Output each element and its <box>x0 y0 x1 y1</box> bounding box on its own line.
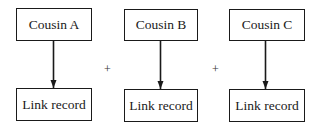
cousin-b-box: Cousin B <box>124 9 198 41</box>
link-record-b-label: Link record <box>129 98 192 114</box>
link-record-b-box: Link record <box>124 89 198 122</box>
cousin-c-label: Cousin C <box>242 17 293 33</box>
plus-operator-2: + <box>212 63 219 75</box>
arrow-c <box>263 41 269 89</box>
link-record-a-label: Link record <box>22 97 85 113</box>
arrow-a <box>51 41 57 88</box>
link-record-c-box: Link record <box>229 89 305 122</box>
arrow-b <box>158 41 164 89</box>
cousin-a-box: Cousin A <box>16 8 92 41</box>
cousin-a-label: Cousin A <box>29 17 80 33</box>
link-record-a-box: Link record <box>16 88 92 121</box>
cousin-c-box: Cousin C <box>229 9 305 41</box>
cousin-b-label: Cousin B <box>136 17 187 33</box>
link-record-c-label: Link record <box>235 98 298 114</box>
plus-operator-1: + <box>104 63 111 75</box>
